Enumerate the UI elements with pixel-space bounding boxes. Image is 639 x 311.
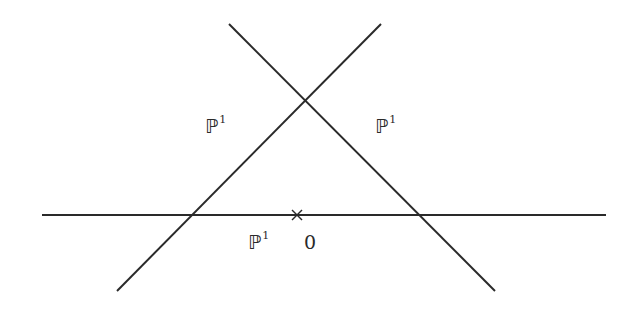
label-origin: 0: [304, 233, 316, 252]
label-p1-right: ℙ1: [375, 117, 396, 136]
label-p1-left: ℙ1: [205, 117, 226, 136]
label-p1-bottom: ℙ1: [248, 233, 269, 252]
diagram-canvas: [0, 0, 639, 311]
